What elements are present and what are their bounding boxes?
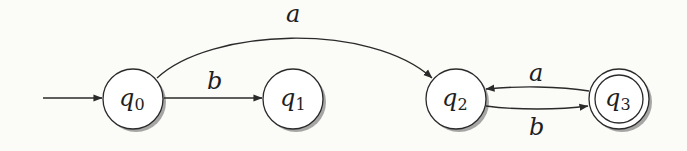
edge-q0-q1: b bbox=[164, 67, 262, 98]
state-q1: q1 bbox=[263, 69, 323, 129]
edge-label-b-q2-q3: b bbox=[529, 113, 544, 141]
edge-q0-q2: a bbox=[157, 0, 432, 78]
edge-q2-q3: b bbox=[486, 106, 588, 141]
state-q2: q2 bbox=[426, 69, 486, 129]
state-q3-subscript: 3 bbox=[620, 95, 630, 114]
state-q3-name: q bbox=[605, 84, 620, 112]
edge-label-a-q0-q2: a bbox=[286, 0, 300, 28]
state-q1-name: q bbox=[280, 84, 295, 112]
edge-q3-q2: a bbox=[486, 59, 589, 91]
state-q2-name: q bbox=[442, 84, 457, 112]
automaton-diagram: a b a b q0 q1 q2 q3 bbox=[0, 0, 687, 151]
edge-label-a-q3-q2: a bbox=[529, 59, 543, 87]
state-q0-subscript: 0 bbox=[134, 95, 144, 114]
edge-label-b-q0-q1: b bbox=[207, 67, 222, 95]
node-shadows bbox=[106, 72, 652, 132]
state-q1-subscript: 1 bbox=[295, 95, 305, 114]
state-q3-accepting: q3 bbox=[589, 69, 649, 129]
state-q2-subscript: 2 bbox=[457, 95, 467, 114]
state-q0: q0 bbox=[103, 69, 163, 129]
state-q0-name: q bbox=[119, 84, 134, 112]
